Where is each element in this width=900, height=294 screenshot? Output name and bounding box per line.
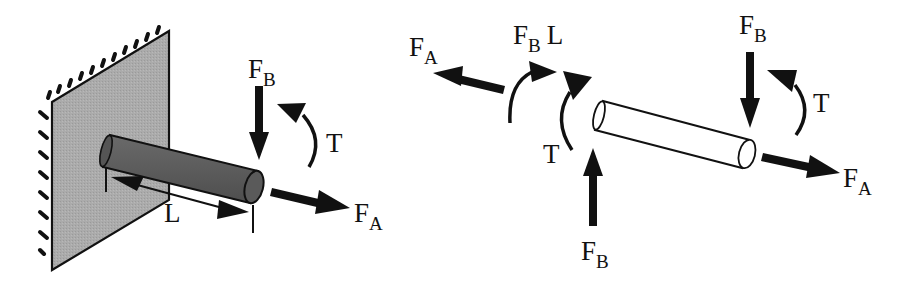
wall-hatching-left: [40, 112, 47, 254]
left-force-a-arrow: [433, 66, 505, 94]
right-torque-label: T: [813, 88, 830, 118]
free-body-shaft: [591, 100, 759, 170]
right-force-b-arrow-down: [740, 52, 760, 128]
bending-moment-arrow: [510, 61, 557, 123]
right-panel-free-body: FA FBL T FB FB: [409, 10, 872, 272]
torque-label: T: [326, 128, 343, 158]
left-force-b-arrow-up: [583, 148, 603, 226]
force-b-label: FB: [248, 54, 276, 90]
left-torque-arrow: [561, 71, 592, 150]
length-label: L: [164, 198, 181, 228]
force-a-arrow: [270, 188, 350, 214]
dimension-arrowhead-right: [217, 200, 249, 219]
force-b-arrow-down: [249, 86, 269, 160]
mechanics-diagram: FB T FA L FA FBL: [0, 0, 900, 294]
right-force-a-label: FA: [843, 163, 872, 199]
torque-arrow: [277, 103, 316, 167]
left-panel-cantilever: FB T FA L: [40, 27, 383, 270]
moment-fb-label: FBL: [513, 20, 563, 56]
right-force-b-label: FB: [739, 10, 767, 46]
force-a-label: FA: [354, 198, 383, 234]
right-force-a-arrow: [761, 153, 840, 178]
left-force-b-label: FB: [581, 236, 609, 272]
left-force-a-label: FA: [409, 32, 438, 68]
left-torque-label: T: [543, 139, 560, 169]
right-torque-arrow: [767, 70, 805, 135]
